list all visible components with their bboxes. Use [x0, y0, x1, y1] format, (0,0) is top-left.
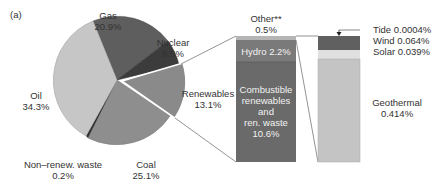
label-other-name: Other**: [250, 13, 281, 24]
label-coal-name: Coal: [136, 159, 156, 170]
other-bar: [318, 36, 360, 162]
connector-line-bottom: [175, 118, 236, 162]
label-waste-value: 0.2%: [52, 170, 74, 181]
label-other-value: 0.5%: [255, 24, 277, 35]
bar-segment-geothermal: [318, 59, 360, 162]
label-renewables-value: 13.1%: [195, 99, 222, 110]
label-gas-name: Gas: [99, 10, 117, 21]
label-solar: Solar 0.039%: [373, 46, 431, 57]
bar-segment-solar: [318, 50, 360, 59]
panel-label: (a): [10, 9, 22, 20]
bar-segment-wind: [318, 36, 360, 50]
label-geothermal-name: Geothermal: [372, 97, 422, 108]
label-nuclear-value: 6.5%: [162, 48, 184, 59]
label-wind: Wind 0.064%: [373, 35, 430, 46]
label-coal-value: 25.1%: [133, 170, 160, 181]
label-comb-3: and: [258, 106, 274, 117]
pie-chart: [53, 16, 186, 145]
label-oil-name: Oil: [30, 90, 42, 101]
label-geothermal-value: 0.414%: [381, 108, 414, 119]
tide-arrow-icon: [337, 32, 342, 36]
label-comb-2: renewables: [242, 95, 291, 106]
label-comb-1: Combustible: [240, 84, 293, 95]
label-oil-value: 34.3%: [23, 101, 50, 112]
bar-segment-other: [236, 36, 296, 40]
connector-line-bottom-2: [296, 40, 318, 162]
label-tide: Tide 0.0004%: [373, 24, 432, 35]
label-hydro: Hydro 2.2%: [241, 46, 291, 57]
label-renewables-name: Renewables: [182, 88, 235, 99]
label-nuclear-name: Nuclear: [157, 37, 190, 48]
label-gas-value: 20.9%: [95, 21, 122, 32]
label-comb-5: 10.6%: [253, 128, 280, 139]
energy-share-chart: (a) Gas 20.9% Nuclear 6.5% O: [0, 0, 445, 193]
label-comb-4: ren. waste: [244, 117, 288, 128]
label-waste-name: Non–renew. waste: [24, 159, 102, 170]
